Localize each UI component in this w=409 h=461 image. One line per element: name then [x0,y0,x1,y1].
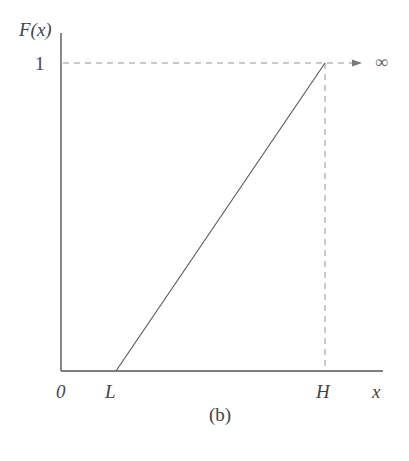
cdf-line [116,63,325,371]
arrow-right-icon [352,60,362,67]
y-axis-label: F(x) [19,20,52,39]
figure-caption: (b) [209,405,231,424]
y-tick-one: 1 [35,54,45,73]
x-tick-l: L [105,382,116,401]
x-axis-label: x [372,382,380,401]
x-tick-h: H [316,382,330,401]
infinity-label: ∞ [375,53,388,71]
origin-label: 0 [56,382,66,401]
